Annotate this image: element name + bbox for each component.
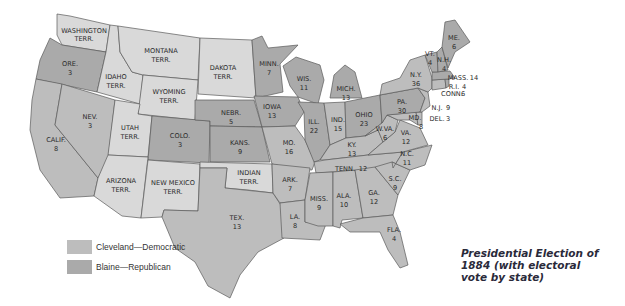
label-south-carolina: S.C. (389, 175, 402, 183)
region-new-york (380, 55, 432, 95)
label-louisiana-votes: 8 (293, 222, 297, 230)
label-vermont: VT. (425, 50, 435, 58)
label-north-carolina-votes: 11 (403, 159, 411, 167)
label-massachusetts: MASS. (448, 74, 469, 82)
legend-item-democratic: Cleveland—Democratic (67, 237, 185, 257)
label-pennsylvania: PA. (397, 98, 407, 106)
label-indian-terr: INDIAN (237, 169, 260, 177)
map-title-line-1: Presidential Election of (461, 247, 621, 259)
label-south-carolina-votes: 9 (393, 184, 397, 192)
label-new-jersey-votes: 9 (446, 104, 450, 112)
map-title-line-2: 1884 (with electoral (461, 259, 621, 271)
label-maryland: MD. (409, 114, 422, 122)
map-title: Presidential Election of 1884 (with elec… (461, 247, 621, 283)
label-wyoming: WYOMING (152, 88, 185, 96)
label-massachusetts-votes: 14 (470, 74, 478, 82)
republican-swatch (67, 260, 92, 274)
label-california-votes: 8 (54, 145, 58, 153)
label-west-virginia: W.VA. (376, 125, 394, 133)
label-tennessee: TENN. (334, 165, 355, 173)
label-kentucky: KY. (348, 141, 357, 149)
label-colorado-votes: 3 (178, 141, 182, 149)
label-indiana-votes: 15 (334, 125, 342, 133)
label-montana: MONTANA (144, 47, 178, 55)
label-kansas-votes: 9 (238, 148, 242, 156)
label-wisconsin: WIS. (297, 75, 312, 83)
label-maine: ME. (448, 34, 460, 42)
label-indian-terr-sub: TERR. (238, 178, 258, 186)
label-dakota: DAKOTA (210, 64, 237, 72)
label-missouri-votes: 16 (285, 148, 293, 156)
label-kentucky-votes: 13 (348, 150, 356, 158)
label-arkansas-votes: 7 (288, 185, 292, 193)
label-oregon-votes: 3 (68, 69, 72, 77)
label-illinois: ILL. (308, 118, 319, 126)
label-dakota-sub: TERR. (212, 73, 232, 81)
label-ohio-votes: 23 (360, 120, 368, 128)
region-iowa (254, 96, 304, 127)
label-minnesota: MINN. (259, 60, 279, 68)
region-connecticut (432, 79, 446, 90)
label-ohio: OHIO (355, 111, 372, 119)
label-new-mexico: NEW MEXICO (151, 179, 195, 187)
label-rhode-island-votes: 4 (462, 83, 466, 91)
label-florida-votes: 4 (392, 235, 396, 243)
label-texas: TEX. (229, 214, 245, 222)
label-nebraska-votes: 5 (229, 118, 233, 126)
label-arkansas: ARK. (282, 176, 298, 184)
label-indiana: IND. (331, 116, 345, 124)
label-montana-sub: TERR. (150, 56, 170, 64)
label-nebraska: NEBR. (221, 109, 241, 117)
label-vermont-votes: 4 (428, 59, 432, 67)
legend-item-republican: Blaine—Republican (67, 257, 185, 277)
label-utah-sub: TERR. (119, 133, 139, 141)
label-oregon: ORE. (62, 60, 78, 68)
label-pennsylvania-votes: 30 (398, 107, 406, 115)
label-delaware-votes: 3 (446, 115, 450, 123)
label-mississippi: MISS. (310, 195, 328, 203)
legend-label-democratic: Cleveland—Democratic (96, 242, 185, 252)
label-nevada: NEV. (83, 113, 98, 121)
label-alabama-votes: 10 (340, 201, 348, 209)
label-texas-votes: 13 (233, 223, 241, 231)
legend-label-republican: Blaine—Republican (96, 262, 171, 272)
label-idaho-sub: TERR. (105, 82, 125, 90)
label-north-carolina: N.C. (400, 150, 414, 158)
label-iowa-votes: 13 (268, 112, 276, 120)
label-new-hampshire: N.H. (437, 56, 451, 64)
label-michigan-votes: 13 (342, 94, 350, 102)
label-florida: FLA. (387, 226, 401, 234)
label-new-hampshire-votes: 4 (442, 65, 446, 73)
label-west-virginia-votes: 6 (383, 134, 387, 142)
region-florida (340, 215, 408, 268)
label-california: CALIF. (46, 136, 66, 144)
label-new-york: N.Y. (410, 71, 422, 79)
label-connecticut-votes: 6 (461, 90, 465, 98)
label-idaho: IDAHO (105, 73, 127, 81)
democratic-swatch (67, 240, 92, 254)
label-colorado: COLO. (170, 132, 190, 140)
label-alabama: ALA. (337, 192, 352, 200)
label-delaware: DEL. (429, 115, 444, 123)
label-kansas: KANS. (230, 139, 250, 147)
map-title-line-3: vote by state) (461, 271, 621, 283)
label-new-jersey: N.J. (431, 104, 442, 112)
label-nevada-votes: 3 (88, 122, 92, 130)
label-maine-votes: 6 (452, 43, 456, 51)
label-virginia-votes: 12 (402, 138, 410, 146)
label-new-mexico-sub: TERR. (162, 188, 182, 196)
label-missouri: MO. (283, 139, 296, 147)
map-legend: Cleveland—Democratic Blaine—Republican (67, 237, 185, 277)
label-maryland-votes: 8 (419, 123, 423, 131)
label-georgia-votes: 12 (370, 198, 378, 206)
label-virginia: VA. (401, 129, 412, 137)
label-connecticut: CONN. (441, 90, 463, 98)
label-iowa: IOWA (263, 103, 281, 111)
label-mississippi-votes: 9 (317, 204, 321, 212)
label-washington: WASHINGTON (61, 27, 107, 35)
label-arizona-sub: TERR. (110, 186, 130, 194)
label-washington-sub: TERR. (73, 35, 93, 43)
label-minnesota-votes: 7 (267, 69, 271, 77)
label-tennessee-votes: 12 (359, 165, 367, 173)
label-georgia: GA. (368, 189, 380, 197)
